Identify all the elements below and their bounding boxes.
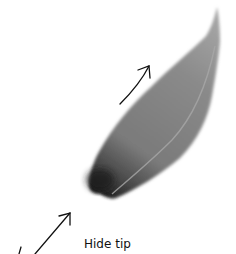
dark-ink-base <box>86 169 114 191</box>
lower-direction-arrow <box>35 213 70 254</box>
brush-stroke-leaf <box>86 7 220 199</box>
hide-tip-caption: Hide tip <box>84 237 131 251</box>
small-tick-mark <box>19 247 21 254</box>
brush-stroke-diagram <box>0 0 236 254</box>
